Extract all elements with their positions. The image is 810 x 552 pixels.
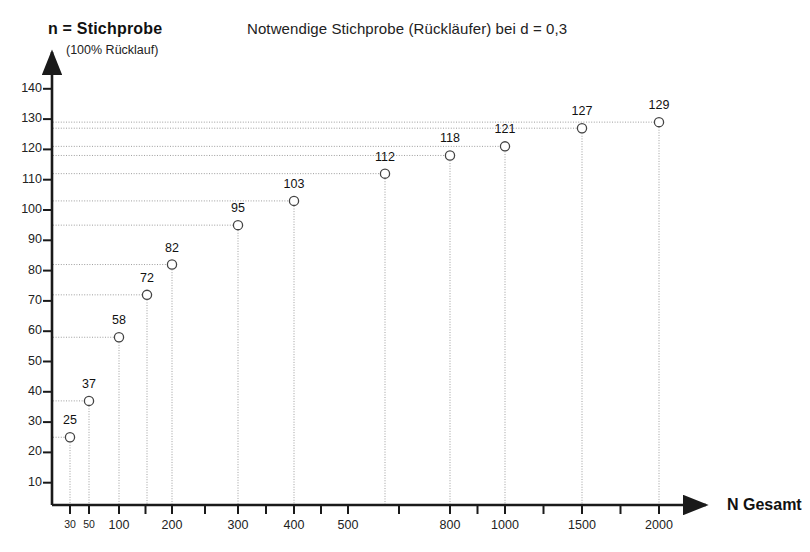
y-tick-label: 120 [4, 141, 42, 155]
y-tick-label: 40 [4, 384, 42, 398]
data-point-label: 103 [284, 177, 305, 191]
data-point-label: 129 [649, 98, 670, 112]
y-tick-label: 130 [4, 111, 42, 125]
x-tick-label: 1000 [491, 518, 519, 532]
x-tick-label: 500 [338, 518, 359, 532]
guide-lines [53, 122, 659, 505]
chart-container: n = Stichprobe (100% Rücklauf) Notwendig… [0, 0, 810, 552]
data-point-label: 72 [140, 271, 154, 285]
data-point-label: 127 [572, 104, 593, 118]
y-tick-label: 140 [4, 81, 42, 95]
data-point-label: 82 [165, 241, 179, 255]
plot-area [0, 0, 810, 552]
y-tick-label: 80 [4, 263, 42, 277]
y-tick-label: 30 [4, 414, 42, 428]
y-tick-label: 60 [4, 323, 42, 337]
x-tick-label: 300 [228, 518, 249, 532]
y-tick-label: 10 [4, 475, 42, 489]
x-tick-label: 800 [440, 518, 461, 532]
y-tick-label: 50 [4, 354, 42, 368]
data-markers [65, 118, 663, 442]
y-tick-label: 70 [4, 293, 42, 307]
x-tick-label: 30 [64, 518, 76, 530]
data-point-label: 58 [112, 313, 126, 327]
data-point-label: 118 [440, 131, 460, 145]
x-tick-label: 100 [109, 518, 130, 532]
x-tick-label: 400 [284, 518, 305, 532]
data-point-label: 95 [231, 201, 245, 215]
x-tick-label: 1500 [568, 518, 596, 532]
y-axis-ticks [43, 89, 52, 483]
y-tick-label: 100 [4, 202, 42, 216]
data-point-label: 121 [495, 122, 516, 136]
x-tick-label: 200 [162, 518, 183, 532]
y-tick-label: 90 [4, 232, 42, 246]
x-axis-ticks [70, 505, 659, 514]
y-tick-label: 20 [4, 444, 42, 458]
y-tick-label: 110 [4, 172, 42, 186]
data-point-label: 112 [375, 150, 395, 164]
data-point-label: 37 [82, 377, 96, 391]
data-point-label: 25 [63, 413, 77, 427]
x-tick-label: 2000 [645, 518, 673, 532]
x-tick-label: 50 [83, 518, 95, 530]
